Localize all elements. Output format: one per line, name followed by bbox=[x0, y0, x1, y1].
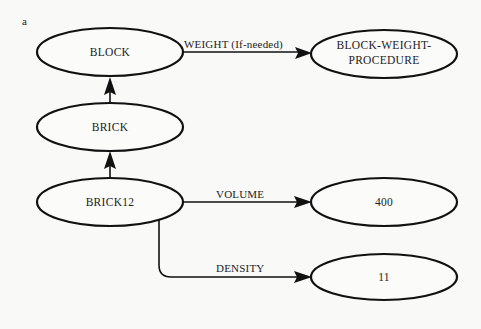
node-label: 400 bbox=[375, 196, 393, 208]
node-block-weight-procedure: BLOCK-WEIGHT- PROCEDURE bbox=[311, 30, 457, 78]
node-volume-value: 400 bbox=[311, 178, 457, 226]
node-label: BRICK12 bbox=[86, 196, 135, 208]
node-label: BRICK bbox=[92, 121, 129, 133]
node-label-line2: PROCEDURE bbox=[348, 54, 419, 66]
panel-label: a bbox=[22, 15, 27, 27]
node-brick12: BRICK12 bbox=[37, 178, 183, 226]
edge-label-density: DENSITY bbox=[216, 262, 264, 274]
node-block: BLOCK bbox=[37, 28, 183, 76]
node-label-line1: BLOCK-WEIGHT- bbox=[337, 39, 432, 51]
edge-label-weight: WEIGHT (If-needed) bbox=[184, 38, 283, 51]
edge-weight: WEIGHT (If-needed) bbox=[183, 38, 312, 59]
edge-volume: VOLUME bbox=[183, 188, 312, 208]
node-brick: BRICK bbox=[37, 103, 183, 151]
edge-brick12-isa-brick bbox=[104, 151, 116, 178]
node-label: BLOCK bbox=[90, 46, 131, 58]
edge-brick-isa-block bbox=[104, 77, 116, 103]
edge-density: DENSITY bbox=[159, 219, 312, 283]
node-density-value: 11 bbox=[311, 254, 457, 300]
frame-diagram: a WEIGHT (If-needed) VOLUME DENSITY BLOC… bbox=[0, 0, 481, 329]
node-label: 11 bbox=[378, 271, 390, 283]
edge-label-volume: VOLUME bbox=[216, 188, 264, 200]
arrowhead-icon bbox=[295, 47, 312, 59]
